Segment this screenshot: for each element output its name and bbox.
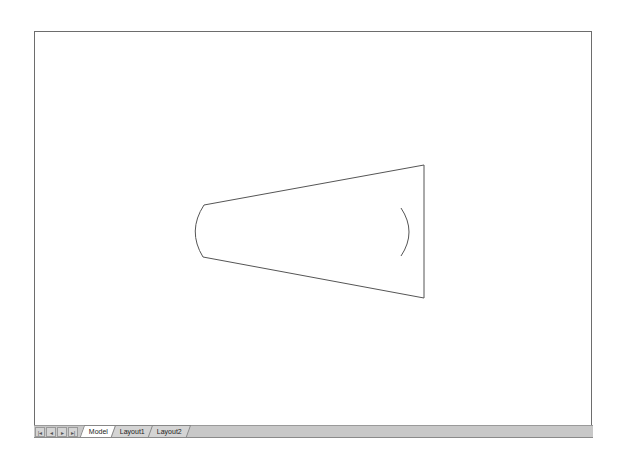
next-tab-button[interactable]: ▸ [57, 427, 67, 437]
drawn-shape[interactable] [195, 165, 424, 298]
last-tab-button[interactable]: ▸| [68, 427, 78, 437]
first-tab-button[interactable]: |◂ [35, 427, 45, 437]
layout-tab-bar: |◂ ◂ ▸ ▸| Model Layout1 Layout2 [34, 425, 593, 438]
tab-layout2[interactable]: Layout2 [148, 425, 191, 437]
drawing-canvas[interactable] [35, 32, 593, 427]
prev-tab-button[interactable]: ◂ [46, 427, 56, 437]
drawing-viewport[interactable] [34, 31, 592, 426]
